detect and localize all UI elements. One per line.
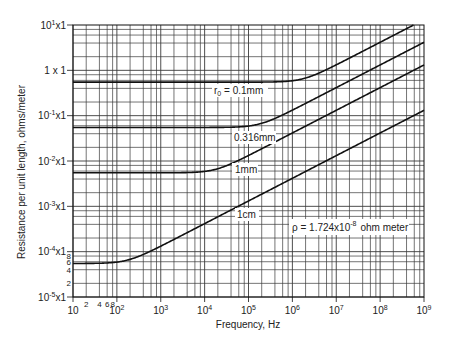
y-minor-tick-label: 2	[67, 279, 72, 288]
y-tick-label: 10-2x1	[38, 155, 66, 167]
x-tick-label: 103	[153, 304, 168, 316]
y-axis-title: Resistance per unit length, ohms/meter	[16, 84, 27, 259]
x-axis-title: Frequency, Hz	[216, 319, 280, 330]
y-tick-label: 10-4x1	[38, 245, 66, 257]
x-minor-tick-label: 6	[105, 300, 110, 309]
curve-label-0316mm: 0.316mm	[234, 132, 276, 143]
x-tick-label: 10	[67, 305, 79, 316]
curve-label-r0: r0 = 0.1mm	[214, 85, 263, 97]
x-tick-label: 104	[197, 304, 212, 316]
y-tick-label: 10-1x1	[38, 109, 66, 121]
y-tick-label: 101x1	[40, 19, 66, 31]
x-tick-label: 106	[285, 304, 300, 316]
y-tick-label: 10-3x1	[38, 200, 66, 212]
y-tick-label: 10-5x1	[38, 291, 66, 303]
y-tick-label: 1 x 1	[44, 65, 66, 76]
x-tick-label: 107	[329, 304, 344, 316]
resistance-vs-frequency-chart: 101x11 x 110-1x110-2x110-3x110-4x110-5x1…	[0, 0, 452, 347]
y-minor-tick-label: 4	[67, 266, 72, 275]
x-tick-label: 105	[241, 304, 256, 316]
curve-label-1mm: 1mm	[235, 164, 257, 175]
x-tick-label: 108	[373, 304, 388, 316]
plot-grid	[73, 25, 424, 297]
curve-label-1cm: 1cm	[237, 209, 256, 220]
x-minor-tick-label: 4	[97, 300, 102, 309]
x-tick-label: 109	[416, 304, 431, 316]
x-minor-tick-label: 2	[84, 300, 89, 309]
labels: Resistance per unit length, ohms/meter F…	[16, 84, 409, 330]
x-minor-tick-label: 8	[110, 300, 115, 309]
